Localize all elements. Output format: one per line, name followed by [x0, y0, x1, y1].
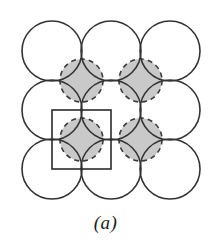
figure-container: (a): [0, 0, 211, 248]
figure-caption: (a): [0, 212, 211, 234]
square-close-packed-layer-diagram: [0, 0, 211, 248]
